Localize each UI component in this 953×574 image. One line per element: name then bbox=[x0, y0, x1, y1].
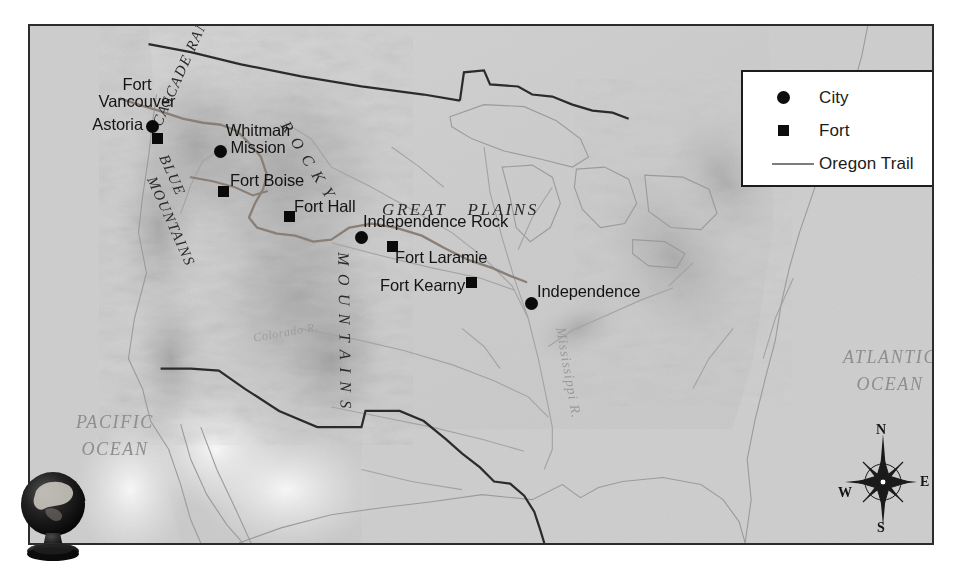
place-label: Astoria bbox=[77, 116, 143, 133]
region-label-mountains: M O U N T A I N S bbox=[334, 252, 355, 411]
compass-label-south: S bbox=[877, 520, 885, 536]
place-label: Whitman Mission bbox=[218, 122, 298, 156]
map-marker-fort[interactable] bbox=[152, 133, 163, 144]
compass-label-east: E bbox=[920, 474, 929, 490]
legend-label-city: City bbox=[819, 88, 849, 108]
place-label: Fort Boise bbox=[230, 172, 316, 189]
map-marker-city[interactable] bbox=[146, 120, 159, 133]
legend-label-oregon-trail: Oregon Trail bbox=[819, 154, 914, 174]
map-frame: GREAT PLAINS R O C K Y M O U N T A I N S… bbox=[28, 24, 934, 545]
place-label: Independence bbox=[537, 283, 655, 300]
place-label: Fort Vancouver bbox=[92, 76, 182, 110]
map-screenshot: GREAT PLAINS R O C K Y M O U N T A I N S… bbox=[0, 0, 953, 574]
map-marker-city[interactable] bbox=[355, 231, 368, 244]
legend-item-oregon-trail: Oregon Trail bbox=[743, 147, 934, 180]
compass-label-north: N bbox=[876, 422, 886, 438]
legend-item-city: City bbox=[743, 81, 934, 114]
legend-item-fort: Fort bbox=[743, 114, 934, 147]
compass-rose-icon bbox=[838, 424, 928, 534]
fort-square-icon bbox=[773, 125, 819, 136]
map-legend: City Fort Oregon Trail bbox=[741, 70, 934, 187]
map-marker-fort[interactable] bbox=[218, 186, 229, 197]
city-dot-icon bbox=[773, 91, 819, 104]
desk-globe bbox=[6, 455, 100, 563]
trail-line-icon bbox=[773, 163, 819, 165]
place-label: Independence Rock bbox=[363, 213, 525, 230]
legend-label-fort: Fort bbox=[819, 121, 850, 141]
place-label: Fort Hall bbox=[294, 198, 370, 215]
place-label: Fort Kearny bbox=[380, 277, 478, 294]
globe-icon bbox=[6, 455, 100, 563]
ocean-label-atlantic: ATLANTIC OCEAN bbox=[830, 344, 934, 398]
place-label: Fort Laramie bbox=[395, 249, 501, 266]
compass-rose: N E W S bbox=[838, 424, 928, 534]
compass-label-west: W bbox=[838, 485, 852, 501]
